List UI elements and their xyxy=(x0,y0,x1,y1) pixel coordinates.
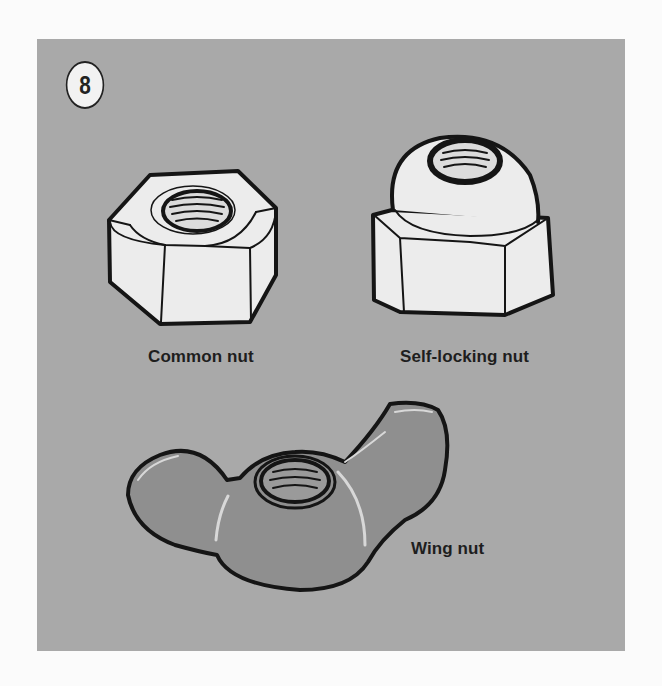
self-locking-nut-label: Self-locking nut xyxy=(400,347,529,367)
wing-nut-illustration xyxy=(128,403,447,590)
common-nut-illustration xyxy=(109,171,276,324)
nuts-illustration xyxy=(0,0,662,686)
self-locking-nut-illustration xyxy=(373,137,553,315)
common-nut-label: Common nut xyxy=(148,347,254,367)
wing-nut-label: Wing nut xyxy=(411,539,484,559)
